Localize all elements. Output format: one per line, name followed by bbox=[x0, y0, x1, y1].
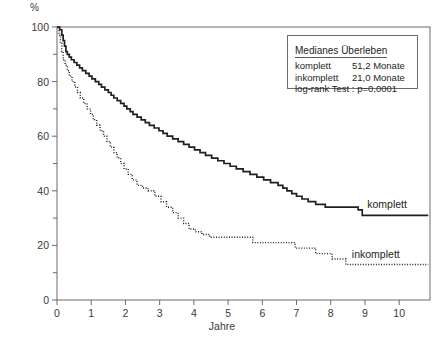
legend-row-inkomplett: inkomplett21,0 Monate bbox=[295, 72, 411, 84]
x-tick-label-9: 9 bbox=[355, 307, 375, 319]
x-tick-label-8: 8 bbox=[321, 307, 341, 319]
legend-row-komplett-value: 51,2 Monate bbox=[352, 60, 405, 71]
legend-row-inkomplett-label: inkomplett bbox=[295, 72, 352, 84]
legend-row-komplett: komplett51,2 Monate bbox=[295, 60, 411, 72]
x-tick-label-4: 4 bbox=[184, 307, 204, 319]
x-tick-label-5: 5 bbox=[218, 307, 238, 319]
curve-label-komplett: komplett bbox=[367, 198, 407, 210]
y-tick-label-100: 100 bbox=[23, 21, 49, 33]
y-tick-label-60: 60 bbox=[23, 130, 49, 142]
x-axis-title: Jahre bbox=[0, 320, 444, 332]
x-tick-label-3: 3 bbox=[150, 307, 170, 319]
x-tick-label-7: 7 bbox=[287, 307, 307, 319]
x-tick-label-1: 1 bbox=[81, 307, 101, 319]
x-tick-label-6: 6 bbox=[252, 307, 272, 319]
legend-logrank-test: log-rank Test : p=0,0001 bbox=[295, 83, 411, 95]
y-tick-label-20: 20 bbox=[23, 239, 49, 251]
y-tick-label-0: 0 bbox=[23, 294, 49, 306]
legend-title: Medianes Überleben bbox=[295, 45, 387, 58]
y-tick-label-80: 80 bbox=[23, 76, 49, 88]
x-tick-label-2: 2 bbox=[115, 307, 135, 319]
legend-row-inkomplett-value: 21,0 Monate bbox=[352, 72, 405, 83]
y-tick-label-40: 40 bbox=[23, 185, 49, 197]
curve-label-inkomplett: inkomplett bbox=[352, 248, 400, 260]
legend-row-komplett-label: komplett bbox=[295, 60, 352, 72]
survival-chart-figure: % 020406080100 012345678910 Jahre komple… bbox=[0, 0, 444, 340]
x-tick-label-10: 10 bbox=[389, 307, 409, 319]
median-survival-legend-box: Medianes Überleben komplett51,2 Monate i… bbox=[287, 35, 418, 89]
x-tick-label-0: 0 bbox=[47, 307, 67, 319]
